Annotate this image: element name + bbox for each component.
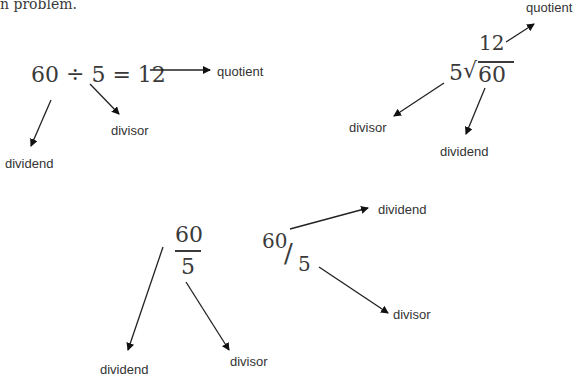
arrow-to-dividend-2 (466, 88, 485, 134)
annotation-arrows (0, 0, 579, 379)
arrow-to-divisor-1 (90, 84, 119, 114)
arrow-to-divisor-3 (186, 282, 229, 350)
arrow-to-dividend-4 (290, 208, 368, 229)
arrow-to-quotient-2 (506, 24, 534, 42)
arrow-to-divisor-2 (394, 83, 444, 116)
arrow-to-dividend-1 (31, 100, 51, 146)
arrow-to-divisor-4 (319, 267, 388, 313)
arrow-to-dividend-3 (128, 247, 163, 350)
